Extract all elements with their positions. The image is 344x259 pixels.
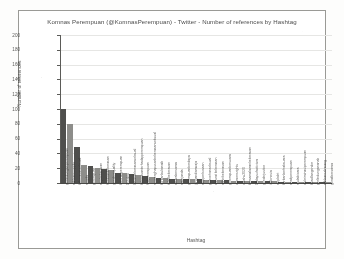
- x-tick-label: kekerasanterhadapperempuan: [140, 139, 144, 185]
- x-tick-label: korbanberhaksuara: [282, 156, 286, 185]
- y-tick-label: 100: [2, 107, 20, 112]
- x-tick-label: perlindungananak: [316, 158, 320, 185]
- x-tick-label: diskriminasiperempuan: [303, 150, 307, 185]
- x-tick-label: lawankekerasanseksual: [133, 149, 137, 185]
- chart-frame: Komnas Perempuan (@KomnasPerempuan) - Tw…: [18, 10, 326, 249]
- y-tick-mark: [57, 79, 60, 80]
- x-tick-label: stopperkosaan: [201, 163, 205, 185]
- gridline: [60, 65, 332, 66]
- y-tick-label: 80: [2, 121, 20, 126]
- gridline: [60, 35, 332, 36]
- x-tick-label: pelecehanseksual: [208, 158, 212, 185]
- x-tick-label: darurat kekerasan: [214, 158, 218, 185]
- x-tick-label: sahkanruuppks: [72, 162, 76, 185]
- x-tick-label: hentikankekerasan: [106, 156, 110, 185]
- x-tick-label: perlindunganperempuan: [65, 148, 69, 185]
- x-tick-label: womensrights: [235, 164, 239, 185]
- x-tick-label: kekerasanseksual: [78, 158, 82, 185]
- chart-title: Komnas Perempuan (@KomnasPerempuan) - Tw…: [19, 18, 325, 25]
- x-tick-label: jangandiamsaja: [194, 161, 198, 185]
- x-tick-label: catahu2020: [242, 167, 246, 185]
- x-tick-label: gerakbersama: [330, 163, 334, 185]
- y-tick-label: 180: [2, 47, 20, 52]
- y-tick-mark: [57, 153, 60, 154]
- x-tick-label: akhirikekerasan: [221, 161, 225, 185]
- x-tick-label: stopkdrt: [276, 173, 280, 185]
- y-tick-label: 0: [2, 181, 20, 186]
- y-tick-label: 140: [2, 77, 20, 82]
- scanned-page: Komnas Perempuan (@KomnasPerempuan) - Tw…: [0, 0, 344, 259]
- y-tick-mark: [57, 124, 60, 125]
- x-tick-label: komnasperempuan: [119, 156, 123, 185]
- y-tick-mark: [57, 183, 60, 184]
- x-tick-label: anakperempuan: [289, 160, 293, 185]
- y-tick-label: 200: [2, 33, 20, 38]
- y-tick-mark: [57, 94, 60, 95]
- x-tick-label: ruupenghapusankekerasanseksual: [153, 132, 157, 185]
- gridline: [60, 153, 332, 154]
- y-tick-mark: [57, 35, 60, 36]
- x-tick-label: perempuan: [92, 168, 96, 185]
- x-tick-label: korbanbukanaib: [160, 161, 164, 185]
- x-axis-title: Hashtag: [60, 237, 332, 243]
- gridline: [60, 79, 332, 80]
- x-tick-label: hakperempuan: [146, 162, 150, 185]
- x-tick-label: indonesia: [269, 170, 273, 185]
- y-tick-mark: [57, 50, 60, 51]
- y-tick-label: 20: [2, 166, 20, 171]
- x-tick-label: 16haktp: [126, 173, 130, 185]
- y-tick-label: 120: [2, 92, 20, 97]
- y-axis-line: [60, 35, 61, 183]
- y-tick-label: 60: [2, 136, 20, 141]
- y-tick-label: 160: [2, 62, 20, 67]
- gridline: [60, 124, 332, 125]
- y-tick-mark: [57, 109, 60, 110]
- y-tick-mark: [57, 139, 60, 140]
- gridline: [60, 139, 332, 140]
- x-tick-label: perempuanberdaya: [187, 155, 191, 185]
- y-axis-title: Number of references: [17, 61, 22, 107]
- x-tick-label: mulaibicara: [296, 168, 300, 185]
- x-tick-label: genderequality: [112, 163, 116, 185]
- y-tick-mark: [57, 168, 60, 169]
- x-tick-label: keadilangender: [310, 162, 314, 185]
- x-tick-label: genderjustice: [262, 165, 266, 185]
- x-tick-label: perempuanbersuara: [228, 154, 232, 185]
- x-tick-label: savejanda: [180, 169, 184, 185]
- y-tick-mark: [57, 65, 60, 66]
- gridline: [60, 109, 332, 110]
- x-tick-label: tolakkekerasan: [167, 162, 171, 185]
- x-tick-label: sahkansekarang: [323, 160, 327, 185]
- y-tick-label: 40: [2, 151, 20, 156]
- gridline: [60, 50, 332, 51]
- x-tick-label: setarabersama: [174, 162, 178, 185]
- x-tick-label: ruupks: [85, 175, 89, 185]
- x-tick-label: stopkekerasan: [99, 163, 103, 185]
- x-tick-label: 16daysofactivism: [255, 159, 259, 185]
- x-tick-label: bersamalawankekerasan: [248, 147, 252, 185]
- gridline: [60, 94, 332, 95]
